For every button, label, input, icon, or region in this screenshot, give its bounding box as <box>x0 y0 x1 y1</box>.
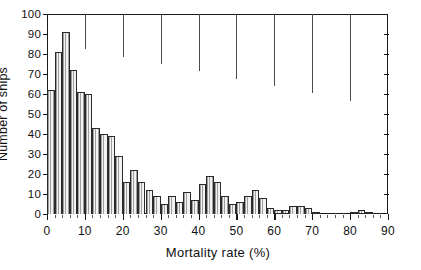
x-axis-tick-label: 40 <box>192 224 206 238</box>
top-axis-tick <box>236 14 237 79</box>
x-axis-minor-tick <box>138 215 139 218</box>
y-axis-tick-label: 10 <box>28 188 41 200</box>
x-axis-tick-label: 50 <box>229 224 243 238</box>
right-axis-tick <box>384 174 389 175</box>
histogram-bar <box>62 32 70 214</box>
x-axis-minor-tick <box>62 215 63 218</box>
x-axis-tick-label: 30 <box>154 224 168 238</box>
y-axis-tick-label: 30 <box>28 148 41 160</box>
x-axis-minor-tick <box>100 215 101 218</box>
x-axis-minor-tick <box>380 215 381 218</box>
y-axis-tick-label: 80 <box>28 48 41 60</box>
right-axis-tick <box>384 154 389 155</box>
histogram-bar <box>108 136 116 214</box>
histogram-bar <box>358 210 366 214</box>
x-axis-minor-tick <box>55 215 56 218</box>
histogram-bar <box>130 170 138 214</box>
x-axis-tick-label: 80 <box>343 224 357 238</box>
x-axis-minor-tick <box>92 215 93 218</box>
histogram-bar <box>191 200 199 214</box>
histogram-bar <box>123 182 131 214</box>
y-axis-tick <box>43 134 47 135</box>
top-axis-tick <box>350 14 351 101</box>
histogram-bar <box>244 196 252 214</box>
x-axis-minor-tick <box>343 215 344 218</box>
x-axis-minor-tick <box>115 215 116 218</box>
x-axis-minor-tick <box>206 215 207 218</box>
x-axis-tick <box>123 214 124 220</box>
top-axis-tick <box>274 14 275 86</box>
top-axis-tick <box>123 14 124 57</box>
plot-area: 0102030405060708090100 01020304050607080… <box>47 14 388 214</box>
histogram-bar <box>305 208 313 214</box>
x-axis-minor-tick <box>214 215 215 218</box>
top-axis-tick <box>161 14 162 64</box>
x-axis-tick-label: 10 <box>78 224 92 238</box>
y-axis-tick-label: 60 <box>28 88 41 100</box>
y-axis-tick <box>43 54 47 55</box>
histogram-bar <box>77 92 85 214</box>
x-axis-tick <box>350 214 351 220</box>
y-axis-tick-label: 40 <box>28 128 41 140</box>
x-axis-tick-label: 60 <box>267 224 281 238</box>
y-axis-tick <box>43 34 47 35</box>
x-axis-tick <box>236 214 237 220</box>
y-axis-tick-label: 100 <box>21 8 41 20</box>
histogram-bar <box>282 210 290 214</box>
x-axis-minor-tick <box>373 215 374 218</box>
y-axis-tick-label: 0 <box>34 208 41 220</box>
y-axis-tick-label: 90 <box>28 28 41 40</box>
x-axis-minor-tick <box>146 215 147 218</box>
x-axis-minor-tick <box>77 215 78 218</box>
histogram-bar <box>92 128 100 214</box>
histogram-bar <box>297 206 305 214</box>
histogram-bar <box>199 184 207 214</box>
right-axis-tick <box>384 74 389 75</box>
x-axis-minor-tick <box>305 215 306 218</box>
x-axis-minor-tick <box>70 215 71 218</box>
x-axis-tick <box>388 214 389 220</box>
x-axis-minor-tick <box>267 215 268 218</box>
histogram-bar <box>221 196 229 214</box>
histogram-bar <box>161 204 169 214</box>
x-axis-title: Mortality rate (%) <box>166 245 270 260</box>
x-axis-tick-label: 0 <box>44 224 51 238</box>
y-axis-tick-label: 70 <box>28 68 41 80</box>
x-axis-minor-tick <box>365 215 366 218</box>
histogram-bar <box>236 202 244 214</box>
x-axis-minor-tick <box>153 215 154 218</box>
y-axis-tick <box>43 154 47 155</box>
histogram-bar <box>85 94 93 214</box>
histogram-bar <box>153 196 161 214</box>
y-axis-tick <box>43 194 47 195</box>
top-axis-line <box>47 14 388 15</box>
histogram-bar <box>115 156 123 214</box>
x-axis-minor-tick <box>191 215 192 218</box>
right-axis-tick <box>384 134 389 135</box>
x-axis-minor-tick <box>289 215 290 218</box>
top-axis-tick <box>312 14 313 93</box>
y-axis-tick <box>43 74 47 75</box>
histogram-bar <box>55 52 63 214</box>
right-axis-tick <box>384 194 389 195</box>
x-axis-tick <box>161 214 162 220</box>
histogram-bar <box>214 182 222 214</box>
histogram-bar <box>100 134 108 214</box>
y-axis-tick-label: 50 <box>28 108 41 120</box>
y-axis-tick <box>43 14 47 15</box>
histogram-bar <box>259 198 267 214</box>
histogram-bar <box>70 70 78 214</box>
x-axis-minor-tick <box>168 215 169 218</box>
histogram-bar <box>267 208 275 214</box>
histogram-bar <box>47 90 55 214</box>
x-axis-minor-tick <box>108 215 109 218</box>
right-axis-tick <box>384 54 389 55</box>
histogram-bar <box>289 206 297 214</box>
x-axis-tick-label: 20 <box>116 224 130 238</box>
x-axis-tick <box>312 214 313 220</box>
x-axis-minor-tick <box>221 215 222 218</box>
y-axis-title: Number of ships <box>0 67 10 161</box>
histogram-bar <box>206 176 214 214</box>
x-axis-minor-tick <box>183 215 184 218</box>
x-axis-tick-label: 70 <box>305 224 319 238</box>
